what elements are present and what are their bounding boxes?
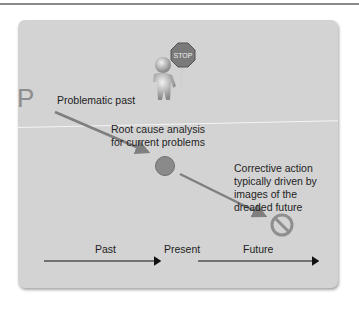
- past-marker-letter: P: [17, 85, 34, 111]
- label-root-cause-2: for current problems: [111, 136, 205, 149]
- diagram-graphics: STOP: [0, 0, 359, 311]
- label-root-cause-1: Root cause analysis: [111, 123, 205, 136]
- label-corrective-1: Corrective action: [234, 162, 313, 175]
- label-corrective-4: dreaded future: [234, 201, 302, 214]
- stop-sign-figure-icon: STOP: [153, 43, 195, 100]
- svg-text:STOP: STOP: [174, 52, 193, 59]
- label-corrective-3: images of the: [234, 188, 297, 201]
- label-present: Present: [164, 243, 200, 256]
- label-corrective-2: typically driven by: [234, 175, 317, 188]
- present-circle-icon: [156, 157, 175, 176]
- label-problematic-past: Problematic past: [57, 94, 135, 107]
- label-future: Future: [243, 243, 273, 256]
- no-symbol-icon: [272, 215, 292, 235]
- label-past: Past: [95, 243, 116, 256]
